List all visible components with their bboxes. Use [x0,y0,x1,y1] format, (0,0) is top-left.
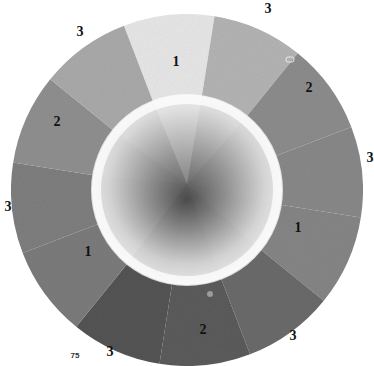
segment-label: 2 [306,81,313,95]
segment-label: 1 [173,55,180,69]
segment-label: 2 [54,115,61,129]
stray-mark [207,291,213,297]
outer-label: 3 [5,200,12,214]
outer-label: 3 [265,2,272,16]
inner-disc [92,95,282,285]
outer-label: 3 [367,151,374,165]
footnote-number: 75 [71,352,80,360]
outer-label: 3 [290,329,297,343]
value-wheel [0,0,374,366]
outer-label: 3 [107,345,114,359]
segment-label: 1 [85,245,92,259]
segment-label: 2 [200,323,207,337]
segment-label: 1 [295,221,302,235]
outer-label: 3 [77,25,84,39]
